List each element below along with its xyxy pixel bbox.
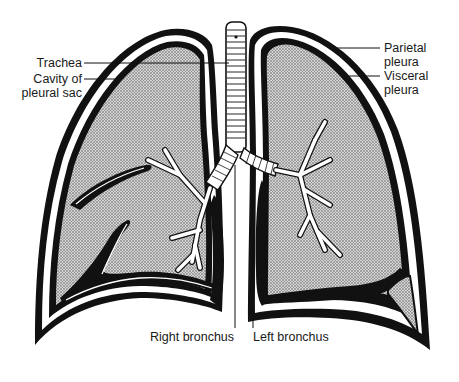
left-bronchus-label: Left bronchus	[253, 330, 329, 344]
cavity-of-pleural-sac-label: Cavity of pleural sac	[20, 72, 82, 100]
parietal-pleura-label: Parietal pleura	[384, 41, 426, 69]
visceral-label-line-1: Visceral	[384, 69, 428, 83]
right-bronchus-label: Right bronchus	[150, 330, 234, 344]
parietal-label-line-1: Parietal	[384, 41, 426, 55]
trachea-label: Trachea	[36, 56, 82, 70]
parietal-label-line-2: pleura	[384, 55, 426, 69]
visceral-pleura-label: Visceral pleura	[384, 69, 428, 97]
cavity-label-line-2: pleural sac	[20, 86, 82, 100]
trachea	[226, 22, 246, 152]
cavity-label-line-1: Cavity of	[20, 72, 82, 86]
visceral-label-line-2: pleura	[384, 83, 428, 97]
